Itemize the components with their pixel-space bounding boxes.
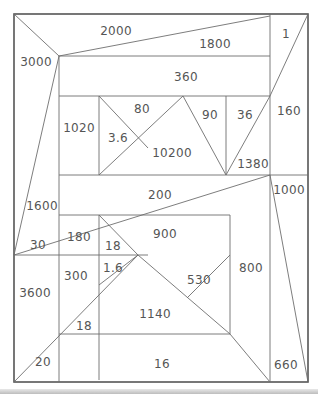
area-label: 30 [30,238,46,252]
segment-line [138,255,230,334]
area-label: 1020 [63,121,95,135]
area-label: 90 [202,108,218,122]
area-label: 1380 [237,157,269,171]
segment-line [270,175,308,382]
area-label: 3600 [19,286,51,300]
area-label: 200 [148,188,172,202]
area-label: 16 [154,357,170,371]
area-label: 18 [105,239,121,253]
area-label: 80 [134,102,150,116]
area-label: 360 [174,70,198,84]
area-label: 180 [67,230,91,244]
window-bottom-edge [0,389,318,394]
area-label: 1000 [273,183,305,197]
area-label: 1600 [26,199,58,213]
area-puzzle-diagram: 200018001300036080903616010203.610200138… [0,0,318,394]
area-label: 10200 [152,146,192,160]
area-label: 800 [239,261,263,275]
area-label: 530 [187,273,211,287]
area-label: 1800 [199,37,231,51]
area-label: 3.6 [108,131,128,145]
area-label: 1.6 [103,261,123,275]
segment-line [14,14,59,56]
area-label: 1 [282,27,290,41]
area-label: 20 [35,355,51,369]
area-label: 900 [153,227,177,241]
segment-line [59,16,270,56]
area-label: 2000 [100,24,132,38]
segment-line [14,56,59,255]
area-label: 660 [274,358,298,372]
area-label: 160 [277,104,301,118]
area-label: 18 [76,319,92,333]
area-label: 36 [237,108,253,122]
area-label: 300 [64,269,88,283]
area-label: 3000 [20,55,52,69]
area-label: 1140 [139,307,171,321]
segment-line [230,334,270,382]
